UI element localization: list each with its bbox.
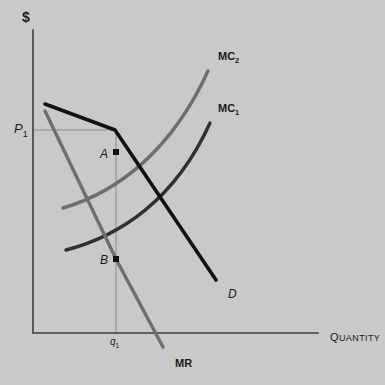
diagram-canvas: [0, 0, 385, 385]
marginal-cost-1-label-subscript: 1: [235, 108, 239, 117]
marginal-cost-1-label: MC1: [218, 103, 239, 117]
x-axis-label-rest: UANTITY: [339, 333, 380, 343]
marginal-cost-1-label-text: MC: [218, 102, 235, 114]
marginal-cost-2-label-text: MC: [218, 50, 235, 62]
point-b-label: B: [100, 254, 108, 266]
marginal-revenue-label: MR: [175, 358, 192, 369]
price-tick-subscript: 1: [23, 129, 28, 139]
price-tick-label: P1: [14, 122, 28, 138]
marginal-cost-1-curve: [66, 123, 210, 250]
quantity-tick-subscript: 1: [116, 342, 120, 349]
kinked-demand-curve-figure: $ QUANTITY P1 q1 MC2 MC1 D MR A B: [0, 0, 385, 385]
x-axis-label: QUANTITY: [330, 328, 380, 344]
quantity-tick-label: q1: [110, 337, 119, 350]
marginal-cost-2-label-subscript: 2: [235, 56, 239, 65]
x-axis-label-lead: Q: [330, 331, 339, 343]
marginal-cost-2-curve: [63, 71, 208, 208]
demand-curve-label: D: [228, 288, 237, 300]
price-tick-letter: P: [14, 121, 23, 136]
point-a-label: A: [100, 148, 108, 160]
point-b-marker: [113, 256, 119, 262]
marginal-cost-2-label: MC2: [218, 51, 239, 65]
y-axis-label: $: [22, 10, 30, 24]
point-a-marker: [113, 149, 119, 155]
